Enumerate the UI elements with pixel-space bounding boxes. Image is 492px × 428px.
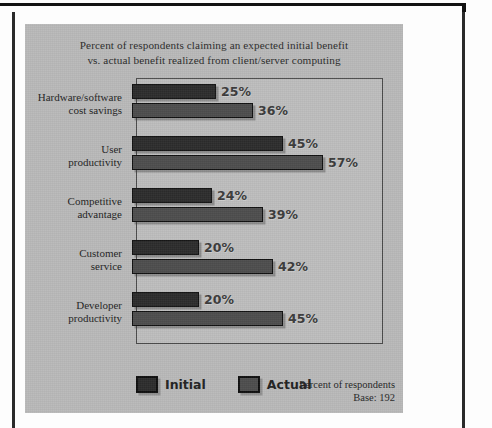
bar-line-actual: 36% (132, 103, 288, 118)
bar-actual (132, 155, 323, 170)
bar-value-initial: 20% (204, 240, 234, 255)
table-row: Customer service 20% 42% (25, 238, 403, 282)
bar-value-initial: 24% (217, 188, 247, 203)
bar-value-actual: 42% (278, 259, 308, 274)
bar-actual (132, 103, 253, 118)
legend-item-initial: Initial (136, 376, 206, 393)
table-row: Developer productivity 20% 45% (25, 290, 403, 334)
page-rule-right (462, 12, 465, 428)
footnote-line-2: Base: 192 (245, 391, 395, 404)
category-label: Customer service (25, 247, 130, 274)
bar-line-initial: 45% (132, 136, 318, 151)
bar-group: 45% 57% (130, 134, 375, 178)
category-label-line-1: User (25, 143, 122, 157)
bar-value-initial: 20% (204, 292, 234, 307)
bar-group: 20% 42% (130, 238, 375, 282)
bar-line-actual: 39% (132, 207, 298, 222)
category-label-line-1: Hardware/software (25, 91, 122, 105)
bar-initial (132, 84, 216, 99)
bar-initial (132, 240, 199, 255)
category-label: Competitive advantage (25, 195, 130, 222)
page-rule-left (12, 12, 15, 428)
category-label-line-1: Customer (25, 247, 122, 261)
bar-line-initial: 24% (132, 188, 247, 203)
category-label-line-2: productivity (25, 156, 122, 170)
category-label: User productivity (25, 143, 130, 170)
table-row: User productivity 45% 57% (25, 134, 403, 178)
bar-value-initial: 25% (221, 84, 251, 99)
bar-actual (132, 259, 273, 274)
bar-rows: Hardware/software cost savings 25% 36% (25, 78, 403, 342)
bar-actual (132, 311, 283, 326)
scanned-page: Percent of respondents claiming an expec… (0, 0, 492, 428)
bar-line-initial: 20% (132, 240, 234, 255)
chart-footnote: Percent of respondents Base: 192 (245, 378, 395, 404)
bar-line-actual: 45% (132, 311, 318, 326)
table-row: Competitive advantage 24% 39% (25, 186, 403, 230)
bar-initial (132, 188, 212, 203)
bar-line-initial: 20% (132, 292, 234, 307)
bar-line-actual: 42% (132, 259, 308, 274)
table-row: Hardware/software cost savings 25% 36% (25, 82, 403, 126)
category-label: Hardware/software cost savings (25, 91, 130, 118)
category-label-line-2: cost savings (25, 104, 122, 118)
bar-value-initial: 45% (288, 136, 318, 151)
category-label-line-1: Developer (25, 299, 122, 313)
figure-panel: Percent of respondents claiming an expec… (25, 24, 403, 413)
bar-value-actual: 45% (288, 311, 318, 326)
category-label-line-1: Competitive (25, 195, 122, 209)
bar-group: 20% 45% (130, 290, 375, 334)
category-label-line-2: advantage (25, 208, 122, 222)
legend-swatch-initial (136, 376, 158, 393)
chart-title: Percent of respondents claiming an expec… (33, 38, 395, 68)
bar-group: 24% 39% (130, 186, 375, 230)
bar-group: 25% 36% (130, 82, 375, 126)
legend-label-initial: Initial (165, 377, 206, 392)
category-label-line-2: service (25, 260, 122, 274)
chart-title-line-2: vs. actual benefit realized from client/… (33, 53, 395, 68)
bar-line-initial: 25% (132, 84, 251, 99)
category-label: Developer productivity (25, 299, 130, 326)
bar-initial (132, 136, 283, 151)
page-rule-top (0, 3, 464, 6)
bar-value-actual: 39% (268, 207, 298, 222)
bar-initial (132, 292, 199, 307)
bar-value-actual: 57% (328, 155, 358, 170)
chart-title-line-1: Percent of respondents claiming an expec… (33, 38, 395, 53)
category-label-line-2: productivity (25, 312, 122, 326)
bar-line-actual: 57% (132, 155, 358, 170)
bar-actual (132, 207, 263, 222)
footnote-line-1: Percent of respondents (245, 378, 395, 391)
bar-value-actual: 36% (258, 103, 288, 118)
page-rule-top-corner (462, 3, 466, 12)
